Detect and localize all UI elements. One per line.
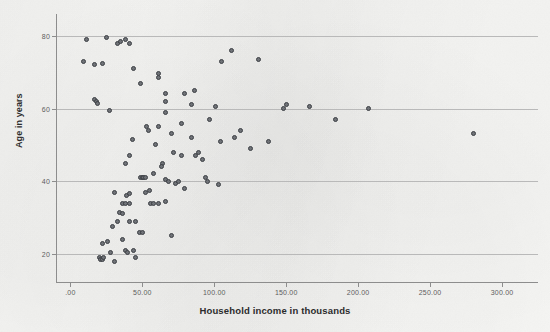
data-point bbox=[189, 135, 194, 140]
data-point bbox=[127, 201, 132, 206]
data-point bbox=[171, 150, 176, 155]
data-point bbox=[123, 161, 128, 166]
data-point bbox=[133, 255, 138, 260]
data-point bbox=[110, 224, 115, 229]
x-tick-label: 250.00 bbox=[419, 289, 442, 296]
data-point bbox=[112, 259, 117, 264]
data-point bbox=[229, 48, 234, 53]
data-point bbox=[147, 188, 152, 193]
data-point bbox=[163, 99, 168, 104]
data-point bbox=[207, 117, 212, 122]
data-point bbox=[143, 175, 148, 180]
data-point bbox=[366, 106, 371, 111]
scanned-chart-page: Age in years Household income in thousan… bbox=[0, 0, 550, 332]
data-point bbox=[193, 153, 198, 158]
data-point bbox=[131, 248, 136, 253]
data-point bbox=[156, 124, 161, 129]
data-point bbox=[133, 219, 138, 224]
x-tick-mark bbox=[358, 283, 359, 287]
data-point bbox=[153, 142, 158, 147]
data-point bbox=[84, 37, 89, 42]
data-point bbox=[169, 131, 174, 136]
x-tick-label: 200.00 bbox=[347, 289, 370, 296]
data-point bbox=[192, 88, 197, 93]
y-tick-mark bbox=[52, 36, 56, 37]
data-point bbox=[266, 139, 271, 144]
data-point bbox=[218, 139, 223, 144]
data-point bbox=[100, 61, 105, 66]
data-point bbox=[127, 41, 132, 46]
data-point bbox=[95, 101, 100, 106]
data-point bbox=[189, 102, 194, 107]
data-point bbox=[471, 131, 476, 136]
x-tick-mark bbox=[502, 283, 503, 287]
data-point bbox=[163, 199, 168, 204]
data-point bbox=[176, 179, 181, 184]
data-point bbox=[107, 108, 112, 113]
x-tick-label: 50.00 bbox=[133, 289, 152, 296]
data-point bbox=[108, 250, 113, 255]
data-point bbox=[182, 186, 187, 191]
x-tick-mark bbox=[286, 283, 287, 287]
data-point bbox=[179, 153, 184, 158]
data-point bbox=[232, 135, 237, 140]
x-axis-line bbox=[56, 282, 538, 283]
y-tick-label: 40 bbox=[42, 178, 50, 185]
data-point bbox=[92, 62, 97, 67]
gridline-y-40 bbox=[57, 181, 538, 182]
data-point bbox=[169, 233, 174, 238]
data-point bbox=[131, 66, 136, 71]
y-tick-label: 60 bbox=[42, 105, 50, 112]
y-tick-mark bbox=[52, 181, 56, 182]
gridline-y-60 bbox=[57, 109, 538, 110]
data-point bbox=[179, 121, 184, 126]
data-point bbox=[163, 91, 168, 96]
y-axis-line bbox=[56, 14, 57, 283]
data-point bbox=[81, 59, 86, 64]
data-point bbox=[256, 57, 261, 62]
data-point bbox=[216, 182, 221, 187]
x-tick-label: 150.00 bbox=[275, 289, 298, 296]
data-point bbox=[105, 239, 110, 244]
data-point bbox=[151, 171, 156, 176]
x-axis-title: Household income in thousands bbox=[0, 305, 550, 316]
data-point bbox=[120, 237, 125, 242]
data-point bbox=[138, 81, 143, 86]
data-point bbox=[307, 104, 312, 109]
data-point bbox=[284, 102, 289, 107]
data-point bbox=[112, 190, 117, 195]
data-point bbox=[104, 35, 109, 40]
data-point bbox=[130, 137, 135, 142]
data-point bbox=[166, 179, 171, 184]
data-point bbox=[127, 191, 132, 196]
x-tick-label: 300.00 bbox=[491, 289, 514, 296]
data-point bbox=[140, 230, 145, 235]
x-tick-label: 100.00 bbox=[203, 289, 226, 296]
data-point bbox=[163, 110, 168, 115]
data-point bbox=[182, 91, 187, 96]
x-tick-label: .00 bbox=[65, 289, 75, 296]
y-tick-label: 80 bbox=[42, 32, 50, 39]
y-tick-mark bbox=[52, 109, 56, 110]
y-axis-title: Age in years bbox=[14, 93, 24, 148]
gridline-y-80 bbox=[57, 36, 538, 37]
data-point bbox=[238, 128, 243, 133]
data-point bbox=[159, 164, 164, 169]
x-tick-mark bbox=[70, 283, 71, 287]
data-point bbox=[146, 128, 151, 133]
y-tick-label: 20 bbox=[42, 250, 50, 257]
data-point bbox=[127, 219, 132, 224]
data-point bbox=[127, 153, 132, 158]
data-point bbox=[248, 146, 253, 151]
data-point bbox=[333, 117, 338, 122]
y-tick-mark bbox=[52, 254, 56, 255]
x-tick-mark bbox=[142, 283, 143, 287]
x-tick-mark bbox=[214, 283, 215, 287]
data-point bbox=[101, 255, 106, 260]
data-point bbox=[219, 59, 224, 64]
scatter-plot-area: 20406080 .0050.00100.00150.00200.00250.0… bbox=[56, 14, 538, 283]
data-point bbox=[156, 201, 161, 206]
data-point bbox=[100, 241, 105, 246]
data-point bbox=[120, 211, 125, 216]
x-tick-mark bbox=[430, 283, 431, 287]
